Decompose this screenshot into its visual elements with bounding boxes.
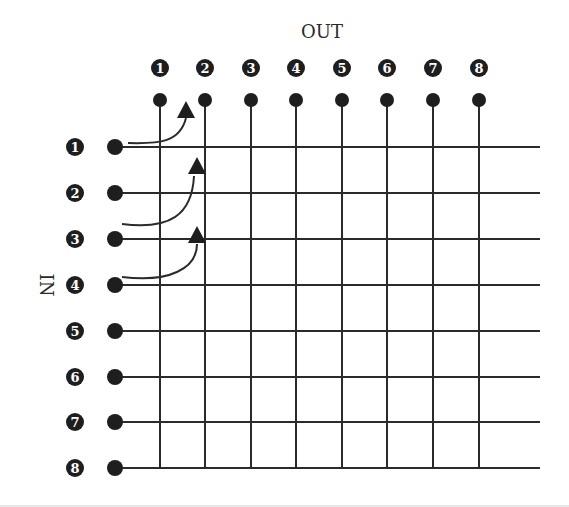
arrowhead-icon (188, 157, 206, 174)
output-terminal-4 (289, 93, 303, 107)
connection-arrow-in3-out2 (122, 157, 206, 225)
input-number: 1 (70, 140, 79, 155)
output-terminal-2 (198, 93, 212, 107)
input-number: 5 (70, 324, 79, 339)
output-number: 5 (337, 61, 346, 76)
output-terminal-7 (426, 93, 440, 107)
output-number: 1 (155, 61, 164, 76)
output-number: 2 (200, 61, 209, 76)
output-number: 4 (291, 61, 300, 76)
input-badge-3: 3 (66, 230, 84, 248)
crossbar-grid (107, 93, 540, 476)
connection-arrow-in4-out2 (122, 226, 206, 278)
output-badge-7: 7 (424, 59, 442, 77)
connection-arrows (122, 101, 206, 278)
input-badge-7: 7 (66, 413, 84, 431)
input-terminal-3 (107, 231, 123, 247)
input-number: 4 (70, 278, 79, 293)
output-number: 6 (382, 61, 391, 76)
output-terminal-6 (380, 93, 394, 107)
output-terminal-8 (472, 93, 486, 107)
output-terminal-1 (153, 93, 167, 107)
input-number: 3 (70, 232, 79, 247)
in-title: IN (36, 274, 57, 297)
input-terminal-7 (107, 414, 123, 430)
input-badge-6: 6 (66, 368, 84, 386)
output-badge-4: 4 (287, 59, 305, 77)
input-number: 6 (70, 370, 79, 385)
crossbar-switch-diagram: OUT IN 12345678 12345678 (0, 0, 569, 507)
output-badge-3: 3 (242, 59, 260, 77)
input-terminal-4 (107, 277, 123, 293)
input-badge-5: 5 (66, 322, 84, 340)
arrowhead-icon (188, 226, 206, 243)
input-number: 7 (70, 415, 79, 430)
arrowhead-icon (177, 101, 195, 118)
input-terminal-6 (107, 369, 123, 385)
input-terminal-1 (107, 139, 123, 155)
output-badges: 12345678 (151, 59, 488, 77)
output-badge-8: 8 (470, 59, 488, 77)
output-number: 3 (246, 61, 255, 76)
input-terminal-8 (107, 460, 123, 476)
input-badge-1: 1 (66, 138, 84, 156)
output-badge-2: 2 (196, 59, 214, 77)
output-terminal-5 (335, 93, 349, 107)
input-number: 2 (70, 186, 79, 201)
output-number: 8 (474, 61, 483, 76)
out-title: OUT (301, 21, 343, 42)
input-badge-4: 4 (66, 276, 84, 294)
output-badge-5: 5 (333, 59, 351, 77)
output-number: 7 (428, 61, 437, 76)
connection-arrow-in1-out1 (128, 101, 195, 143)
input-terminal-2 (107, 185, 123, 201)
output-badge-6: 6 (378, 59, 396, 77)
input-number: 8 (70, 461, 79, 476)
input-terminal-5 (107, 323, 123, 339)
input-badge-2: 2 (66, 184, 84, 202)
output-badge-1: 1 (151, 59, 169, 77)
output-terminal-3 (244, 93, 258, 107)
input-badges: 12345678 (66, 138, 84, 477)
input-badge-8: 8 (66, 459, 84, 477)
